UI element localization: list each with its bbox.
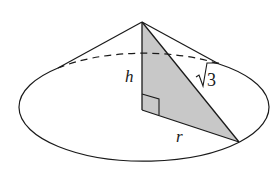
label-sqrt3-value: 3 — [207, 70, 216, 90]
cone-left-side — [58, 22, 142, 68]
label-r: r — [176, 127, 183, 146]
label-sqrt3: 3 — [196, 63, 219, 90]
cone-diagram: h 3 r — [0, 0, 278, 169]
label-h: h — [125, 67, 134, 86]
